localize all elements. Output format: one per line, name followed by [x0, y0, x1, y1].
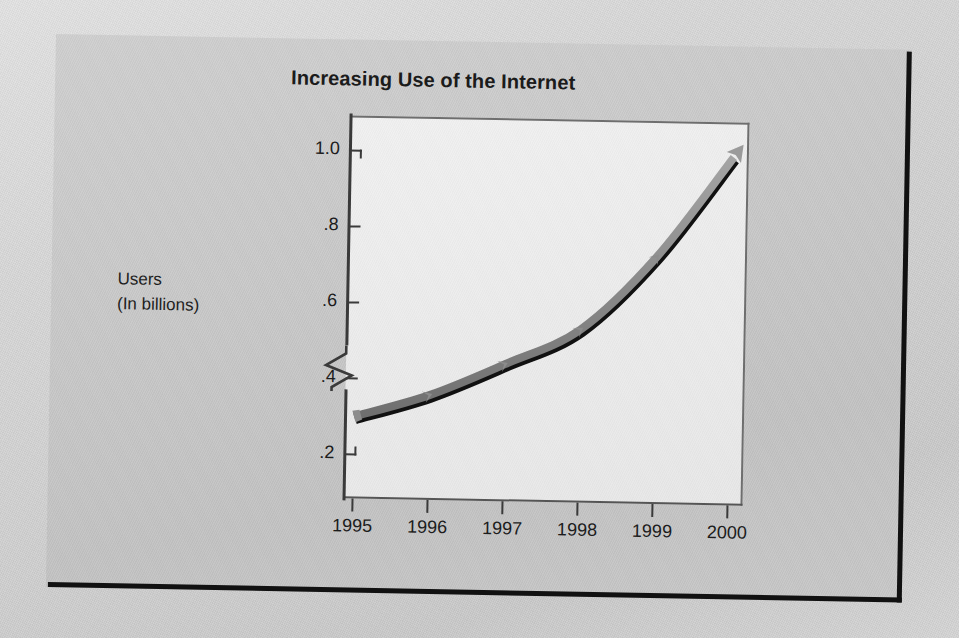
x-axis-label: 2000	[694, 522, 760, 544]
x-axis-label: 1998	[544, 519, 610, 541]
x-axis-label: 1995	[319, 515, 385, 537]
y-axis-label: .8	[280, 213, 338, 235]
chart-figure: Increasing Use of the Internet Users (In…	[46, 34, 912, 603]
x-axis-label: 1997	[469, 518, 535, 540]
x-tick-1995	[351, 498, 353, 511]
series-line-shadow	[355, 154, 735, 427]
x-tick-1997	[501, 501, 503, 514]
x-axis-label: 1999	[619, 520, 685, 542]
x-tick-1996	[426, 500, 428, 513]
y-axis-label: .2	[276, 441, 334, 463]
series-line-band	[354, 151, 734, 424]
figure-panel: Increasing Use of the Internet Users (In…	[46, 34, 912, 603]
x-tick-1998	[576, 503, 578, 516]
y-axis-label: .6	[279, 289, 337, 311]
x-axis-label: 1996	[394, 516, 460, 538]
x-tick-1999	[651, 504, 653, 517]
y-axis-label: 1.0	[282, 137, 340, 159]
chart-title: Increasing Use of the Internet	[173, 64, 693, 97]
data-series-line	[344, 115, 750, 505]
x-tick-2000	[726, 505, 728, 518]
